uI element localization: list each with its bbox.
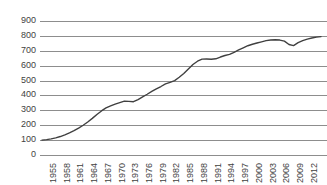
x-tick-label: 1958 (63, 163, 72, 183)
y-tick-label: 600 (21, 61, 36, 70)
x-tick-label: 1979 (159, 163, 168, 183)
x-tick-label: 1997 (241, 163, 250, 183)
line-chart: 9008007006005004003002001000 19551958196… (0, 0, 327, 185)
x-tick-label: 2006 (282, 163, 291, 183)
y-tick-label: 200 (21, 120, 36, 129)
x-axis: 1955195819611964196719701973197619791982… (40, 155, 327, 185)
y-tick-label: 100 (21, 135, 36, 144)
x-tick-label: 1994 (227, 163, 236, 183)
x-tick-label: 1955 (49, 163, 58, 183)
y-tick-label: 800 (21, 31, 36, 40)
x-tick-label: 1973 (131, 163, 140, 183)
y-tick-label: 500 (21, 76, 36, 85)
x-tick-label: 1964 (90, 163, 99, 183)
y-tick-label: 700 (21, 46, 36, 55)
x-tick-label: 1985 (186, 163, 195, 183)
y-tick-label: 900 (21, 16, 36, 25)
x-tick-label: 1988 (200, 163, 209, 183)
y-tick-label: 400 (21, 90, 36, 99)
x-tick-label: 2003 (269, 163, 278, 183)
y-axis: 9008007006005004003002001000 (0, 0, 40, 185)
x-tick-label: 1991 (214, 163, 223, 183)
x-tick-label: 1982 (172, 163, 181, 183)
y-tick-label: 0 (31, 150, 36, 159)
x-tick-label: 1976 (145, 163, 154, 183)
series-line (42, 37, 321, 140)
y-tick-label: 300 (21, 105, 36, 114)
x-tick-label: 2000 (255, 163, 264, 183)
x-tick-label: 2012 (310, 163, 319, 183)
x-tick-label: 1961 (76, 163, 85, 183)
x-tick-label: 1970 (118, 163, 127, 183)
x-tick-label: 2009 (296, 163, 305, 183)
x-tick-label: 1967 (104, 163, 113, 183)
